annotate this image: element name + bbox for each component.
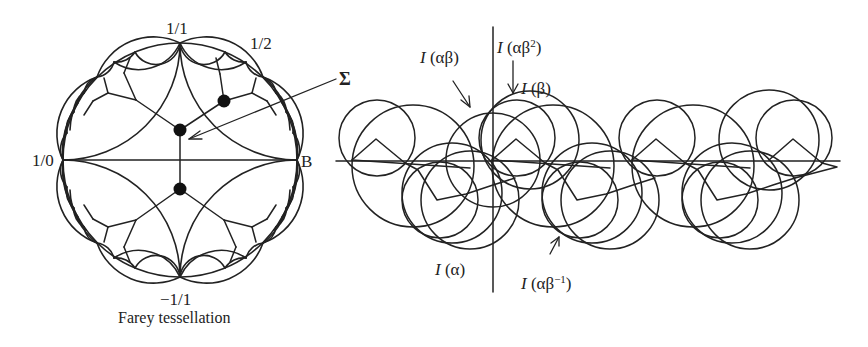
label-I-ab: I (αβ)	[419, 48, 459, 67]
caption-farey: Farey tessellation	[118, 309, 230, 327]
figure: 1/1 1/2 1/0 B −1/1 Farey tessellation Σ …	[0, 0, 868, 347]
label-1-1: 1/1	[166, 19, 188, 38]
vertex-dot	[174, 124, 187, 137]
label-I-b: I (β)	[520, 79, 551, 98]
diagram-canvas: 1/1 1/2 1/0 B −1/1 Farey tessellation Σ …	[0, 0, 868, 347]
vertex-dot	[218, 95, 231, 108]
label-1-0: 1/0	[32, 151, 54, 170]
arrow-I-abinv	[550, 237, 559, 254]
label-B: B	[301, 152, 312, 171]
label-sigma: Σ	[339, 69, 351, 89]
label-I-ab2: I (αβ2)	[496, 37, 541, 57]
label-I-a: I (α)	[434, 260, 465, 279]
label-minus-1-1: −1/1	[160, 290, 191, 309]
tree-vertices	[174, 95, 231, 196]
circle-group	[619, 100, 799, 249]
arrow-I-ab	[453, 81, 470, 107]
isometric-circle-chain	[336, 27, 840, 292]
label-1-2: 1/2	[250, 34, 272, 53]
label-I-abinv: I (αβ−1)	[520, 273, 572, 293]
vertex-dot	[174, 183, 187, 196]
farey-disk	[57, 37, 303, 283]
